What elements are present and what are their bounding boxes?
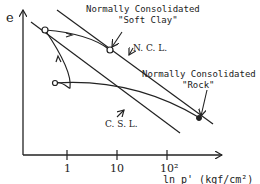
soft-clay-pointer	[112, 32, 122, 47]
ncl-label: N. C. L.	[133, 43, 167, 53]
direction-arrow-icon	[56, 56, 61, 62]
csl-label: C. S. L.	[105, 119, 138, 129]
soft-clay-label-2: "Soft Clay"	[118, 15, 178, 25]
loading-path-loop	[45, 30, 70, 88]
rock-pointer	[201, 90, 207, 116]
rock-label-1: Normally Consolidated	[142, 69, 256, 79]
state-point-soft-clay	[107, 47, 113, 53]
tick-label-10: 10	[110, 162, 124, 175]
y-axis-label: e	[6, 10, 14, 25]
rock-label-2: "Rock"	[182, 80, 215, 90]
x-axis	[23, 150, 222, 160]
state-point-rock	[197, 116, 202, 121]
state-point-rock-start	[53, 81, 58, 86]
ncl-line	[57, 10, 213, 124]
csl-pointer	[117, 110, 124, 117]
soft-clay-label-1: Normally Consolidated	[86, 4, 200, 14]
void-ratio-pressure-diagram: e 1 10 10² ln p' (kgf/cm²) Normally Cons…	[0, 0, 260, 184]
loading-path-rock	[55, 82, 200, 118]
state-point-initial	[42, 27, 48, 33]
x-axis-label: ln p' (kgf/cm²)	[163, 174, 253, 184]
tick-label-1: 1	[64, 162, 71, 175]
